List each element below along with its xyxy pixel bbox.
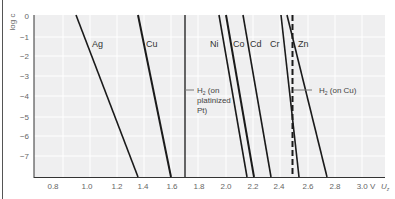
svg-text:−1: −1 [20,33,30,42]
svg-text:2.0: 2.0 [220,182,232,191]
svg-text:0: 0 [25,12,30,21]
svg-text:−5: −5 [20,113,30,122]
annotation-h2-pt-line3: Pt) [197,106,208,115]
svg-text:1.4: 1.4 [137,182,149,191]
svg-text:1.0: 1.0 [81,182,93,191]
svg-text:1.6: 1.6 [166,182,178,191]
svg-text:2.4: 2.4 [273,182,285,191]
label-ag: Ag [92,39,103,49]
annotation-h2-pt-line2: platinized [197,96,231,105]
svg-text:3.0 V: 3.0 V [357,182,376,191]
svg-text:−3: −3 [20,72,30,81]
label-co: Co [233,39,245,49]
label-cu: Cu [146,39,158,49]
svg-text:−2: −2 [20,52,30,61]
svg-text:1.8: 1.8 [193,182,205,191]
annotation-h2-cu: H2 (on Cu) [319,86,357,96]
y-axis-label: log c [8,14,17,31]
svg-text:−4: −4 [20,92,30,101]
svg-text:0.8: 0.8 [47,182,59,191]
svg-text:2.8: 2.8 [329,182,341,191]
svg-text:2.2: 2.2 [247,182,259,191]
y-ticks: 0 −1 −2 −3 −4 −5 −6 −7 [20,12,30,161]
x-axis-unit: Uz [381,182,390,192]
label-cd: Cd [250,39,262,49]
label-cr: Cr [270,39,280,49]
svg-text:−6: −6 [20,132,30,141]
svg-text:2.6: 2.6 [302,182,314,191]
label-zn: Zn [298,39,309,49]
svg-text:−7: −7 [20,152,30,161]
svg-text:1.2: 1.2 [111,182,123,191]
x-ticks: 0.8 1.0 1.2 1.4 1.6 1.8 2.0 2.2 2.4 2.6 … [47,182,389,192]
chart: log c 0 −1 −2 −3 −4 −5 −6 −7 0.8 1.0 1.2… [0,0,395,199]
label-ni: Ni [210,39,219,49]
annotation-h2-pt: H2 (on [197,86,219,96]
